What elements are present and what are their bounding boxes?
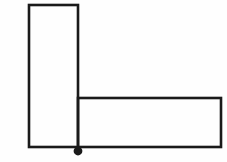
pivot-dot-marker — [74, 147, 83, 156]
l-shape-figure — [0, 0, 227, 162]
canvas-background — [0, 0, 227, 162]
diagram-canvas — [0, 0, 227, 162]
